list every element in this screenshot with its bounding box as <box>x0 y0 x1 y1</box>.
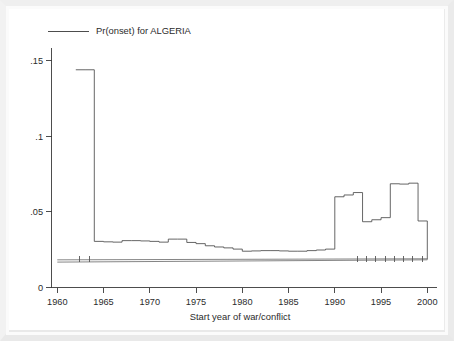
series-line-pr-onset-algeria <box>76 70 428 260</box>
y-tick-label-0: 0 <box>38 283 43 293</box>
figure-page: Pr(onset) for ALGERIA 0 .05 .1 .15 1960 … <box>0 0 454 341</box>
x-axis-title: Start year of war/conflict <box>190 311 291 322</box>
line-chart: Pr(onset) for ALGERIA 0 .05 .1 .15 1960 … <box>0 0 454 341</box>
x-tick-label-1990: 1990 <box>325 297 345 307</box>
y-tick-label-01: .1 <box>35 132 43 142</box>
legend-label-algeria: Pr(onset) for ALGERIA <box>96 25 192 36</box>
x-tick-label-1965: 1965 <box>93 297 113 307</box>
y-tick-label-015: .15 <box>30 56 43 66</box>
x-tick-label-2000: 2000 <box>417 297 437 307</box>
x-tick-label-1985: 1985 <box>278 297 298 307</box>
x-tick-label-1995: 1995 <box>371 297 391 307</box>
x-tick-label-1970: 1970 <box>140 297 160 307</box>
baseline-baseline-lower <box>57 260 427 262</box>
y-axis: 0 .05 .1 .15 <box>30 48 51 293</box>
x-tick-label-1960: 1960 <box>47 297 67 307</box>
y-tick-label-005: .05 <box>30 207 43 217</box>
plot-data-layer <box>57 70 427 262</box>
x-axis: 1960 1965 1970 1975 1980 1985 1990 1995 … <box>47 288 437 323</box>
baseline-baseline-upper <box>57 259 427 260</box>
chart-legend: Pr(onset) for ALGERIA <box>48 25 192 36</box>
x-tick-label-1975: 1975 <box>186 297 206 307</box>
x-tick-label-1980: 1980 <box>232 297 252 307</box>
